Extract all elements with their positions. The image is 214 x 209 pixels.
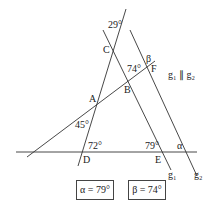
point-d: D (83, 155, 90, 165)
angle-72: 72° (88, 141, 102, 151)
label-g1: g₁ (168, 170, 177, 180)
point-f: F (151, 64, 157, 74)
geometry-figure (0, 0, 214, 209)
angle-alpha: α (177, 141, 182, 151)
angle-79: 79° (145, 141, 159, 151)
parallel-note: g₁ ∥ g₂ (168, 70, 195, 80)
line-g1 (103, 30, 171, 170)
point-e: E (155, 155, 161, 165)
label-g2: g₂ (194, 170, 203, 180)
answer-beta: β = 74° (128, 180, 166, 200)
point-a: A (89, 94, 96, 104)
line-cd (78, 9, 126, 166)
angle-45: 45° (75, 120, 89, 130)
angle-74: 74° (127, 64, 141, 74)
point-c: C (103, 45, 110, 55)
point-b: B (124, 85, 131, 95)
answer-alpha: α = 79° (76, 180, 114, 200)
angle-29: 29° (108, 20, 122, 30)
